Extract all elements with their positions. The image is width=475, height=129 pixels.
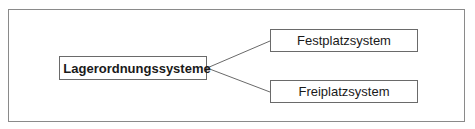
child-node-festplatzsystem: Festplatzsystem <box>270 29 418 52</box>
child-node-label: Freiplatzsystem <box>298 84 389 99</box>
child-node-label: Festplatzsystem <box>297 33 391 48</box>
root-node: Lagerordnungssysteme <box>59 56 207 80</box>
connector-to-freiplatzsystem <box>207 68 270 92</box>
child-node-freiplatzsystem: Freiplatzsystem <box>270 80 418 103</box>
root-node-label: Lagerordnungssysteme <box>63 61 210 76</box>
connector-to-festplatzsystem <box>207 41 270 68</box>
